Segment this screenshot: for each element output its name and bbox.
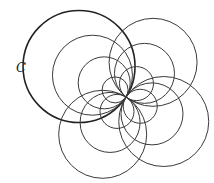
circle-family-diagram: C (0, 0, 214, 183)
circle-upper-right-2 (119, 67, 153, 101)
circles-group (23, 11, 209, 179)
circle-c-label: C (16, 60, 26, 75)
circle-lower-left-2 (100, 94, 134, 128)
